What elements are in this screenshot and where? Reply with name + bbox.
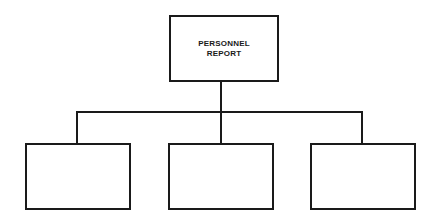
- root-label-line2: REPORT: [198, 49, 250, 59]
- connector-left-down: [76, 111, 78, 144]
- root-label: PERSONNEL REPORT: [198, 39, 250, 59]
- root-box-personnel-report: PERSONNEL REPORT: [169, 15, 279, 82]
- root-label-line1: PERSONNEL: [198, 39, 250, 49]
- child-box-center: [168, 143, 274, 210]
- connector-horizontal: [76, 111, 363, 113]
- child-box-left: [25, 143, 131, 210]
- child-box-right: [310, 143, 416, 210]
- connector-right-down: [361, 111, 363, 144]
